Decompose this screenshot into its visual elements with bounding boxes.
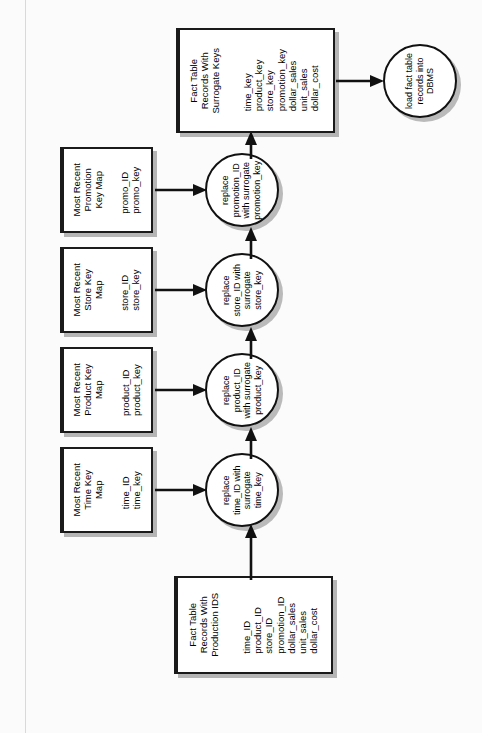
diagram-canvas: time_ID product_ID store_ID promotion_ID… xyxy=(0,0,482,733)
map-promotion-title: Most Recent Promotion Key Map xyxy=(71,163,105,216)
process-replace-promotion-id-label: replace promotion_ID with surrogate prom… xyxy=(221,160,263,219)
arrow-time-map-to-process xyxy=(155,482,207,498)
entity-target-fields: time_key product_key store_key promotion… xyxy=(242,49,320,111)
process-replace-store-id-label: replace store_ID with surrogate store_ke… xyxy=(221,264,263,317)
entity-most-recent-store-key-map[interactable]: store_ID store_key Most Recent Store Key… xyxy=(60,247,153,333)
entity-fact-table-surrogate-keys[interactable]: time_key product_key store_key promotion… xyxy=(176,28,335,133)
entity-fact-table-production-ids[interactable]: time_ID product_ID store_ID promotion_ID… xyxy=(174,576,333,674)
entity-source-title: Fact Table Records With Production IDS xyxy=(187,593,221,657)
entity-target-title: Fact Table Records With Surrogate Keys xyxy=(188,48,222,113)
entity-most-recent-time-key-map[interactable]: time_ID time_key Most Recent Time Key Ma… xyxy=(60,447,153,533)
map-product-fields: product_ID product_key xyxy=(120,364,142,416)
arrow-store-map-to-process xyxy=(155,282,207,298)
map-store-fields: store_ID store_key xyxy=(120,269,142,310)
process-replace-promotion-id[interactable]: replace promotion_ID with surrogate prom… xyxy=(205,153,279,227)
process-replace-product-id-label: replace product_ID with surrogate produc… xyxy=(221,362,263,419)
arrow-promotion-map-to-process xyxy=(155,182,207,198)
process-load-fact-table-into-dbms[interactable]: load fact table records into DBMS xyxy=(383,44,457,118)
arrow-source-to-replace-time xyxy=(243,524,259,580)
entity-most-recent-promotion-key-map[interactable]: promo_ID promo_key Most Recent Promotion… xyxy=(60,147,153,233)
arrow-replace-product-to-replace-store xyxy=(243,327,259,359)
process-replace-product-id[interactable]: replace product_ID with surrogate produc… xyxy=(205,353,279,427)
process-replace-time-id[interactable]: replace time_ID with surrogate time_key xyxy=(205,453,279,527)
arrow-replace-time-to-replace-product xyxy=(243,427,259,459)
map-product-title: Most Recent Product Key Map xyxy=(71,363,105,416)
arrow-replace-promotion-to-target xyxy=(243,131,259,159)
entity-most-recent-product-key-map[interactable]: product_ID product_key Most Recent Produ… xyxy=(60,347,153,433)
map-time-fields: time_ID time_key xyxy=(120,471,142,509)
map-store-title: Most Recent Store Key Map xyxy=(71,263,105,316)
arrow-product-map-to-process xyxy=(155,382,207,398)
arrow-target-to-load-dbms xyxy=(336,73,384,89)
process-replace-time-id-label: replace time_ID with surrogate time_key xyxy=(221,465,263,515)
map-time-title: Most Recent Time Key Map xyxy=(71,463,105,516)
entity-source-fields: time_ID product_ID store_ID promotion_ID… xyxy=(241,596,319,653)
process-load-dbms-label: load fact table records into DBMS xyxy=(404,53,436,109)
arrow-replace-store-to-replace-promotion xyxy=(243,227,259,259)
map-promotion-fields: promo_ID promo_key xyxy=(120,167,142,214)
process-replace-store-id[interactable]: replace store_ID with surrogate store_ke… xyxy=(205,253,279,327)
